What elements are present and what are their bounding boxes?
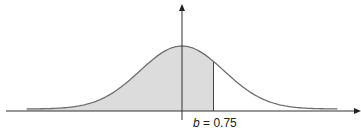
x-axis-arrow-icon: [354, 108, 361, 114]
equals-sign: =: [200, 116, 214, 130]
normal-distribution-figure: [0, 0, 361, 135]
y-axis-arrow-icon: [179, 4, 185, 11]
b-value-label: b = 0.75: [193, 116, 237, 130]
b-value: 0.75: [213, 116, 236, 130]
shaded-area-left-of-b: [27, 46, 214, 111]
b-variable: b: [193, 116, 200, 130]
